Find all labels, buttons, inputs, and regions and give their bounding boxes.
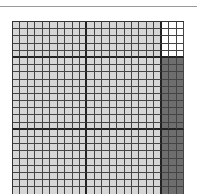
grid-cell [139, 166, 146, 173]
grid-cell [28, 101, 35, 108]
grid-cell [117, 87, 124, 94]
grid-cell [110, 80, 117, 87]
grid-cell [169, 44, 176, 51]
grid-cell [132, 80, 139, 87]
grid-cell [58, 29, 65, 36]
grid-cell [169, 115, 176, 122]
grid-cell [35, 44, 42, 51]
grid-cell [102, 108, 109, 115]
grid-cell [20, 36, 27, 43]
grid-cell [50, 108, 57, 115]
grid-cell [87, 115, 94, 122]
grid-cell [117, 187, 124, 194]
grid-cell [87, 159, 94, 166]
grid-cell [117, 130, 124, 137]
grid-cell [147, 29, 154, 36]
grid-cell [43, 51, 50, 58]
grid-cell [177, 166, 184, 173]
grid-cell [20, 180, 27, 187]
grid-cell [110, 51, 117, 58]
grid-cell [28, 80, 35, 87]
grid-cell [73, 108, 80, 115]
grid-cell [169, 180, 176, 187]
grid-cell [58, 173, 65, 180]
grid-cell [139, 108, 146, 115]
grid-cell [50, 22, 57, 29]
grid-cell [169, 87, 176, 94]
grid-cell [80, 80, 87, 87]
grid-cell [80, 94, 87, 101]
grid-cell [139, 36, 146, 43]
grid-cell [117, 80, 124, 87]
grid-cell [117, 94, 124, 101]
grid-cell [169, 144, 176, 151]
grid-cell [80, 180, 87, 187]
grid-cell [20, 22, 27, 29]
grid-cell [20, 29, 27, 36]
grid-cell [50, 72, 57, 79]
grid-cell [117, 22, 124, 29]
grid-cell [147, 123, 154, 130]
grid-cell [87, 22, 94, 29]
grid-cell [147, 115, 154, 122]
grid-cell [65, 180, 72, 187]
grid-cell [65, 65, 72, 72]
grid-cell [102, 130, 109, 137]
grid-cell [20, 115, 27, 122]
grid-cell [169, 22, 176, 29]
grid-cell [73, 187, 80, 194]
grid-cell [125, 65, 132, 72]
grid-cell [125, 159, 132, 166]
grid-cell [177, 58, 184, 65]
grid-cell [117, 44, 124, 51]
grid-cell [28, 72, 35, 79]
grid-cell [65, 159, 72, 166]
grid-cell [132, 151, 139, 158]
grid-cell [154, 115, 161, 122]
grid-cell [65, 22, 72, 29]
grid-cell [28, 137, 35, 144]
grid-cell [35, 94, 42, 101]
grid-cell [147, 187, 154, 194]
grid-cell [28, 187, 35, 194]
grid-cell [169, 94, 176, 101]
grid-cell [154, 51, 161, 58]
grid-cell [80, 130, 87, 137]
grid-cell [177, 65, 184, 72]
grid-cell [110, 159, 117, 166]
grid-cell [110, 87, 117, 94]
grid-cell [139, 29, 146, 36]
grid-cell [169, 72, 176, 79]
grid-cell [154, 144, 161, 151]
grid-cell [35, 36, 42, 43]
grid-cell [35, 123, 42, 130]
grid-cell [20, 108, 27, 115]
grid-cell [177, 44, 184, 51]
grid-cell [87, 144, 94, 151]
grid-cell [102, 22, 109, 29]
grid-cell [13, 101, 20, 108]
grid-cell [147, 94, 154, 101]
grid-cell [65, 137, 72, 144]
grid-cell [58, 22, 65, 29]
grid-cell [139, 87, 146, 94]
grid-cell [139, 123, 146, 130]
grid-cell [154, 123, 161, 130]
grid-cell [147, 159, 154, 166]
grid-cell [43, 115, 50, 122]
grid-cell [125, 101, 132, 108]
grid-cell [110, 180, 117, 187]
grid-cell [139, 115, 146, 122]
grid-cell [117, 123, 124, 130]
grid-cell [95, 72, 102, 79]
grid-cell [177, 101, 184, 108]
grid-cell [65, 72, 72, 79]
grid-cell [73, 51, 80, 58]
grid-cell [102, 115, 109, 122]
grid-cell [162, 144, 169, 151]
grid-cell [125, 130, 132, 137]
grid-cell [65, 130, 72, 137]
grid-cell [102, 123, 109, 130]
grid-cell [169, 101, 176, 108]
grid-cell [110, 72, 117, 79]
